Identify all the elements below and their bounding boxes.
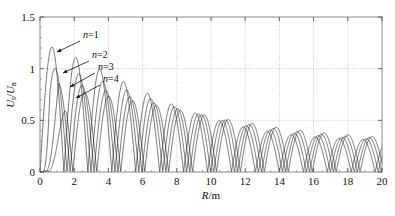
y-tick-label-1: 1: [30, 63, 36, 75]
x-tick-label-4: 4: [106, 175, 112, 187]
chart-canvas: 02468101214161820 00.511.5 R/m Us/Un n=1…: [0, 0, 395, 216]
x-tick-label-2: 2: [71, 175, 77, 187]
curve-label-n2: n=2: [92, 49, 108, 60]
curve-label-n3: n=3: [98, 61, 114, 72]
x-tick-label-20: 20: [377, 175, 389, 187]
y-tick-label-0: 0: [30, 166, 36, 178]
figure-background: [0, 0, 395, 216]
curve-label-n1: n=1: [83, 29, 99, 40]
y-tick-label-0.5: 0.5: [21, 114, 35, 126]
x-tick-label-0: 0: [37, 175, 43, 187]
x-axis-title: R/m: [201, 189, 221, 201]
x-tick-label-16: 16: [308, 175, 320, 187]
curve-label-n4: n=4: [103, 73, 119, 84]
x-tick-label-12: 12: [240, 175, 251, 187]
x-tick-label-6: 6: [140, 175, 146, 187]
chart-figure: 02468101214161820 00.511.5 R/m Us/Un n=1…: [0, 0, 395, 216]
y-tick-label-1.5: 1.5: [21, 11, 35, 23]
x-tick-label-14: 14: [274, 175, 286, 187]
x-tick-label-10: 10: [206, 175, 218, 187]
x-tick-label-8: 8: [174, 175, 180, 187]
x-tick-label-18: 18: [342, 175, 354, 187]
